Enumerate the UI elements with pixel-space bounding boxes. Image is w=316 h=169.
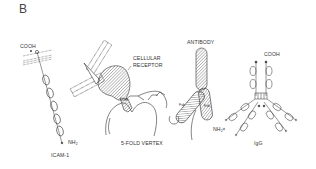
cellular-receptor-label-line1: CELLULAR (133, 56, 161, 61)
cellular-receptor-label-line2: RECEPTOR (133, 63, 163, 68)
icam1-structure (23, 50, 64, 144)
antibody-structure (169, 48, 213, 140)
igg-label: IgG (254, 141, 263, 146)
icam1-label: ICAM-1 (51, 153, 69, 158)
igg-structure (223, 61, 297, 136)
antibody-label: ANTIBODY (187, 40, 214, 45)
fab-label-right: Fab (204, 105, 210, 109)
five-fold-vertex-label: 5-FOLD VERTEX (121, 141, 163, 146)
icam1-cooh-label: COOH (20, 44, 36, 49)
icam1-nh2-label: NH2 (68, 140, 78, 147)
figure-panel-b: B COOH NH2 ICAM-1 CELLULAR RECEPTOR 5-FO… (0, 0, 316, 169)
cellular-receptor-structure (70, 40, 132, 112)
antibody-nh2-label: NH2 (213, 127, 223, 134)
igg-cooh-label: COOH (264, 52, 280, 57)
panel-label: B (19, 3, 27, 15)
fab-label-left: Fab (179, 104, 185, 108)
